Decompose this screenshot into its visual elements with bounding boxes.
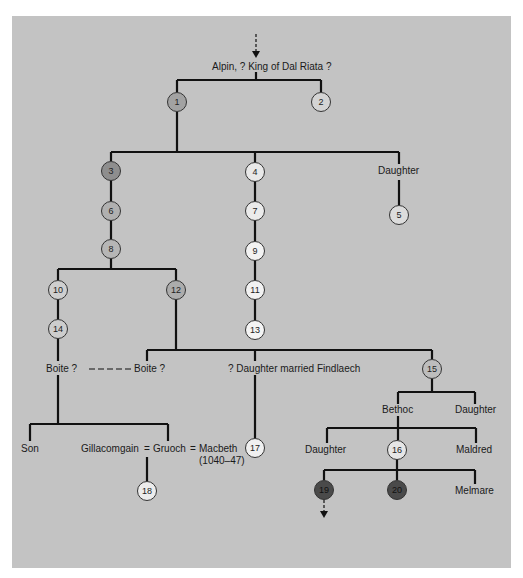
arrow-down-icon bbox=[320, 511, 328, 518]
node-11: 11 bbox=[245, 280, 265, 300]
node-7: 7 bbox=[245, 201, 265, 221]
label-daughter-findlaech: ? Daughter married Findlaech bbox=[228, 363, 360, 374]
node-16: 16 bbox=[387, 440, 407, 460]
node-13: 13 bbox=[245, 320, 265, 340]
node-12: 12 bbox=[166, 280, 186, 300]
label-daughter-top: Daughter bbox=[378, 165, 419, 176]
label-gruoch: Gruoch bbox=[153, 443, 186, 454]
node-8: 8 bbox=[101, 239, 121, 259]
label-gillacomgain: Gillacomgain bbox=[81, 443, 139, 454]
node-6: 6 bbox=[101, 201, 121, 221]
label-daughter-15: Daughter bbox=[455, 404, 496, 415]
node-10: 10 bbox=[48, 280, 68, 300]
label-daughter-bethoc: Daughter bbox=[305, 444, 346, 455]
label-maldred: Maldred bbox=[456, 444, 492, 455]
node-17: 17 bbox=[245, 438, 265, 458]
arrow-down-icon bbox=[252, 51, 260, 58]
label-boite-left: Boite ? bbox=[46, 363, 77, 374]
label-son: Son bbox=[21, 443, 39, 454]
label-macbeth-reign: (1040–47) bbox=[199, 455, 245, 466]
node-5: 5 bbox=[389, 205, 409, 225]
node-18: 18 bbox=[137, 481, 157, 501]
label-eq1: = bbox=[144, 443, 150, 454]
label-macbeth: Macbeth bbox=[199, 443, 237, 454]
root-label: Alpin, ? King of Dal Riata ? bbox=[212, 61, 332, 72]
node-3: 3 bbox=[101, 161, 121, 181]
label-eq2: = bbox=[190, 443, 196, 454]
node-2: 2 bbox=[311, 92, 331, 112]
label-boite-right: Boite ? bbox=[134, 363, 165, 374]
label-melmare: Melmare bbox=[455, 485, 494, 496]
node-20: 20 bbox=[387, 480, 407, 500]
node-14: 14 bbox=[48, 319, 68, 339]
node-15: 15 bbox=[422, 359, 442, 379]
node-19: 19 bbox=[314, 480, 334, 500]
node-9: 9 bbox=[245, 241, 265, 261]
node-4: 4 bbox=[245, 162, 265, 182]
label-bethoc: Bethoc bbox=[382, 404, 413, 415]
node-1: 1 bbox=[167, 92, 187, 112]
